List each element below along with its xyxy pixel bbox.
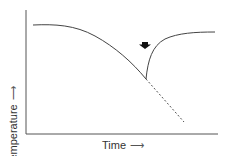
chart-canvas — [0, 0, 230, 156]
intervention-arrow-icon — [139, 42, 151, 49]
y-axis-label: Body Temperature ⟶ — [6, 64, 20, 156]
recovery-curve — [146, 32, 215, 79]
x-axis-label: Time ⟶ — [102, 139, 144, 151]
x-axis-title: Time — [102, 139, 126, 151]
y-axis-arrow-icon: ⟶ — [8, 86, 19, 100]
projected-dashed-line — [146, 79, 184, 122]
x-axis-arrow-icon: ⟶ — [130, 140, 144, 151]
cooling-curve — [33, 25, 146, 79]
y-axis-title: Body Temperature — [7, 104, 19, 156]
